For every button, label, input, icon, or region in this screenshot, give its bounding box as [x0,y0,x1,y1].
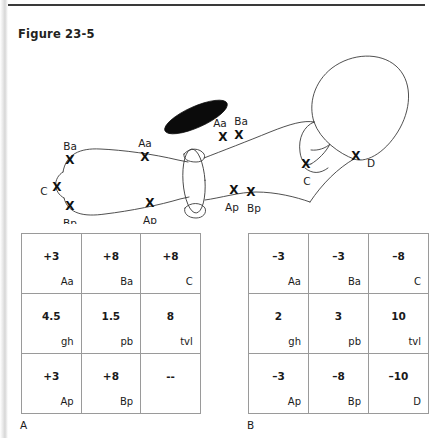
cell-value: 8 [141,310,200,322]
cell-label: tvl [180,336,193,347]
cell-value: –3 [249,250,308,262]
marker-label-ap-lower: Ap [225,201,239,213]
cell-value: 2 [249,310,308,322]
popq-cell-d: -- [141,354,201,414]
pelvic-prolapse-diagram: XBaXCXBpXAaXApXAaXBaXApXBpXCXD [8,42,428,224]
popq-grid-b: –3 Aa –3 Ba –8 C 2 gh 3 pb 10 tv [248,233,429,414]
cell-label: pb [120,336,133,347]
table-row: +3 Aa +8 Ba +8 C [22,234,201,294]
popq-cell-tvl: 8 tvl [141,294,201,354]
marker-x-icon: X [65,153,75,167]
page-top-rule [7,4,425,6]
panel-letter-b: B [247,419,254,431]
panel-letter-a: A [20,419,27,431]
popq-cell-bp: +8 Bp [81,354,141,414]
marker-label-ba-left: Ba [63,140,77,152]
diagram-markers: XBaXCXBpXAaXApXAaXBaXApXBpXCXD [40,115,375,224]
cell-value: +8 [82,370,141,382]
marker-x-icon: X [52,180,62,194]
popq-cell-gh: 2 gh [249,294,309,354]
cell-label: Ba [120,276,133,287]
table-row: –3 Ap –8 Bp –10 D [249,354,429,414]
cell-value: +8 [82,250,141,262]
popq-cell-gh: 4.5 gh [22,294,82,354]
cell-label: D [413,396,421,407]
popq-cell-bp: –8 Bp [309,354,369,414]
cell-label: gh [61,336,74,347]
marker-x-icon: X [234,128,244,142]
cell-value: 10 [369,310,428,322]
cell-value: –3 [249,370,308,382]
cell-label: Ap [60,396,73,407]
marker-x-icon: X [65,199,75,213]
popq-cell-d: –10 D [369,354,429,414]
cell-label: Aa [288,276,301,287]
popq-cell-c: –8 C [369,234,429,294]
popq-grid-a: +3 Aa +8 Ba +8 C 4.5 gh 1.5 pb 8 [21,233,201,414]
marker-x-icon: X [145,196,155,210]
popq-cell-aa: +3 Aa [22,234,82,294]
cell-label: Bp [120,396,133,407]
cell-value: +3 [22,370,81,382]
cell-value: 3 [309,310,368,322]
cell-value: 4.5 [22,310,81,322]
table-row: –3 Aa –3 Ba –8 C [249,234,429,294]
marker-x-icon: X [301,157,311,171]
page-left-gutter [0,0,8,438]
table-row: +3 Ap +8 Bp -- [22,354,201,414]
cell-value: +3 [22,250,81,262]
table-row: 2 gh 3 pb 10 tvl [249,294,429,354]
cell-value: –3 [309,250,368,262]
page-title: Figure 23-5 [18,27,95,41]
popq-cell-c: +8 C [141,234,201,294]
marker-label-aa-mid: Aa [138,137,152,149]
cell-value: –8 [369,250,428,262]
popq-cell-ap: +3 Ap [22,354,82,414]
popq-cell-ba: –3 Ba [309,234,369,294]
popq-cell-pb: 1.5 pb [81,294,141,354]
cell-label: Bp [348,396,361,407]
popq-cell-ap: –3 Ap [249,354,309,414]
popq-cell-tvl: 10 tvl [369,294,429,354]
popq-cell-ba: +8 Ba [81,234,141,294]
cell-label: C [414,276,421,287]
marker-label-ap-mid: Ap [143,214,157,224]
marker-x-icon: X [229,183,239,197]
cell-label: Ba [348,276,361,287]
cell-label: tvl [408,336,421,347]
marker-label-bp-left: Bp [63,217,77,224]
marker-label-bp-lower: Bp [247,202,261,214]
marker-x-icon: X [218,130,228,144]
cell-label: C [186,276,193,287]
cell-value: +8 [141,250,200,262]
marker-x-icon: X [246,185,256,199]
popq-cell-pb: 3 pb [309,294,369,354]
cell-label: pb [348,336,361,347]
marker-label-d-right: D [367,157,375,169]
marker-label-c-left: C [40,185,47,197]
cell-label: Aa [61,276,74,287]
marker-x-icon: X [140,150,150,164]
cell-value: –10 [369,370,428,382]
cell-value: 1.5 [82,310,141,322]
cell-label: Ap [288,396,301,407]
cell-value: –8 [309,370,368,382]
marker-label-ba-upper: Ba [234,115,248,127]
table-row: 4.5 gh 1.5 pb 8 tvl [22,294,201,354]
cell-label: gh [288,336,301,347]
marker-x-icon: X [351,149,361,163]
marker-label-c-right: C [303,175,310,187]
popq-cell-aa: –3 Aa [249,234,309,294]
marker-label-aa-upper: Aa [213,117,227,129]
cell-value: -- [141,370,200,382]
